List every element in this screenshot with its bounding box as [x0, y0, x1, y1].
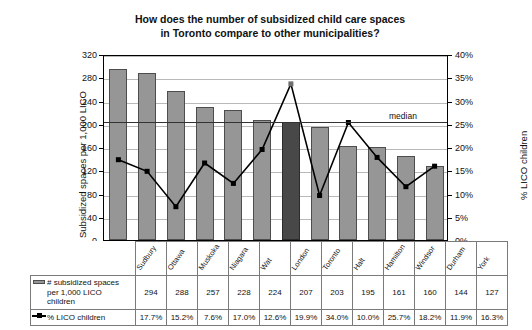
legend-text-line-1: # subsidized spaces: [47, 278, 119, 287]
category-label: Wat: [259, 256, 274, 272]
bar-swatch-icon: [33, 280, 45, 284]
table-cell-value: 144: [446, 276, 477, 310]
category-label: Toronto: [321, 246, 343, 272]
category-label: Durham: [445, 245, 468, 272]
line-marker: [403, 184, 408, 189]
table-cell-value: 207: [291, 276, 322, 310]
line-marker: [145, 169, 150, 174]
table-cell-value: 224: [260, 276, 291, 310]
category-label: Ottawa: [166, 247, 187, 272]
table-cell-value: 160: [415, 276, 446, 310]
table-cell-value: 17.7%: [136, 310, 167, 326]
table-cell-value: 25.7%: [384, 310, 415, 326]
table-cell-value: 257: [198, 276, 229, 310]
y-axis-right-title: % LICO children: [518, 131, 529, 200]
table-cell-value: 195: [353, 276, 384, 310]
table-cell-category: London: [291, 242, 322, 276]
table-cell-category: York: [477, 242, 508, 276]
table-cell-value: 15.2%: [167, 310, 198, 326]
y-axis-right-tick-label: 25%: [455, 121, 495, 130]
table-cell-category: Hamilton: [384, 242, 415, 276]
y-axis-left-tick-label: 80: [63, 191, 97, 200]
line-marker-swatch-icon: [32, 315, 46, 317]
table-cell-category: Ottawa: [167, 242, 198, 276]
y-axis-left-tick-label: 320: [63, 51, 97, 60]
y-axis-right-tick-label: 30%: [455, 98, 495, 107]
percent-line: [118, 84, 434, 207]
table-cell-value: 12.6%: [260, 310, 291, 326]
table-cell-value: 228: [229, 276, 260, 310]
line-marker: [231, 181, 236, 186]
table-cell-value: 294: [136, 276, 167, 310]
legend-text-line-2: per 1,000 LICO: [47, 288, 102, 297]
y-axis-left-tick-label: 120: [63, 167, 97, 176]
line-series: [104, 56, 449, 242]
line-marker: [173, 204, 178, 209]
table-cell-category: Toronto: [322, 242, 353, 276]
table-cell-category: Sudbury: [136, 242, 167, 276]
line-marker: [260, 147, 265, 152]
category-label: Niagara: [228, 245, 250, 272]
line-marker: [375, 155, 380, 160]
y-axis-left-tick-label: 40: [63, 214, 97, 223]
y-axis-left-tick-label: 200: [63, 121, 97, 130]
category-label: Hamilton: [383, 243, 407, 272]
table-cell-value: 288: [167, 276, 198, 310]
line-marker: [116, 157, 121, 162]
chart-title-line-2: in Toronto compare to other municipaliti…: [160, 27, 379, 39]
table-cell-value: 7.6%: [198, 310, 229, 326]
table-row-percent: % LICO children 17.7% 15.2% 7.6% 17.0% 1…: [31, 310, 508, 326]
category-label: Windsor: [414, 244, 437, 272]
y-axis-left-tick-label: 160: [63, 144, 97, 153]
table-cell-value: 127: [477, 276, 508, 310]
data-table: Sudbury Ottawa Muskoka Niagara Wat Londo…: [30, 241, 508, 326]
legend-label-spaces: # subsidized spaces per 1,000 LICO child…: [31, 276, 136, 310]
table-row-categories: Sudbury Ottawa Muskoka Niagara Wat Londo…: [31, 242, 508, 276]
line-marker: [317, 193, 322, 198]
y-axis-right-tick-label: 15%: [455, 167, 495, 176]
category-label: Sudbury: [135, 244, 158, 272]
table-cell-value: 16.3%: [477, 310, 508, 326]
y-axis-right-tick-label: 10%: [455, 191, 495, 200]
legend-text-percent: % LICO children: [47, 313, 105, 322]
plot-area: median: [103, 55, 448, 241]
y-axis-left-tick-label: 280: [63, 74, 97, 83]
table-cell-category: Halt: [353, 242, 384, 276]
legend-text-line-3: children: [47, 297, 75, 306]
line-marker: [288, 81, 293, 86]
table-cell-value: 161: [384, 276, 415, 310]
chart-title-line-1: How does the number of subsidized child …: [135, 13, 405, 25]
y-axis-right-tick-label: 20%: [455, 144, 495, 153]
table-cell-value: 17.0%: [229, 310, 260, 326]
category-label: Muskoka: [197, 242, 222, 272]
table-cell-value: 11.9%: [446, 310, 477, 326]
category-label: Halt: [352, 256, 367, 272]
table-cell-value: 203: [322, 276, 353, 310]
median-line: [104, 122, 447, 123]
table-row-spaces: # subsidized spaces per 1,000 LICO child…: [31, 276, 508, 310]
y-axis-right-tick-label: 5%: [455, 214, 495, 223]
table-cell-category: Wat: [260, 242, 291, 276]
y-axis-right-tick-label: 35%: [455, 74, 495, 83]
y-axis-right-tick-label: 40%: [455, 51, 495, 60]
table-cell-category: Durham: [446, 242, 477, 276]
legend-label-percent: % LICO children: [31, 310, 136, 326]
table-cell-value: 18.2%: [415, 310, 446, 326]
table-cell-value: 19.9%: [291, 310, 322, 326]
category-label: York: [476, 255, 492, 272]
table-cell-value: 10.0%: [353, 310, 384, 326]
line-marker: [432, 164, 437, 169]
table-cell-value: 34.0%: [322, 310, 353, 326]
chart-root: How does the number of subsidized child …: [0, 0, 532, 330]
table-corner-cell: [31, 242, 136, 276]
line-marker: [202, 161, 207, 166]
chart-title: How does the number of subsidized child …: [90, 12, 450, 40]
y-axis-left-tick-label: 240: [63, 98, 97, 107]
table-cell-category: Muskoka: [198, 242, 229, 276]
table-cell-category: Windsor: [415, 242, 446, 276]
median-label: median: [387, 111, 419, 121]
table-cell-category: Niagara: [229, 242, 260, 276]
category-label: London: [290, 246, 312, 272]
